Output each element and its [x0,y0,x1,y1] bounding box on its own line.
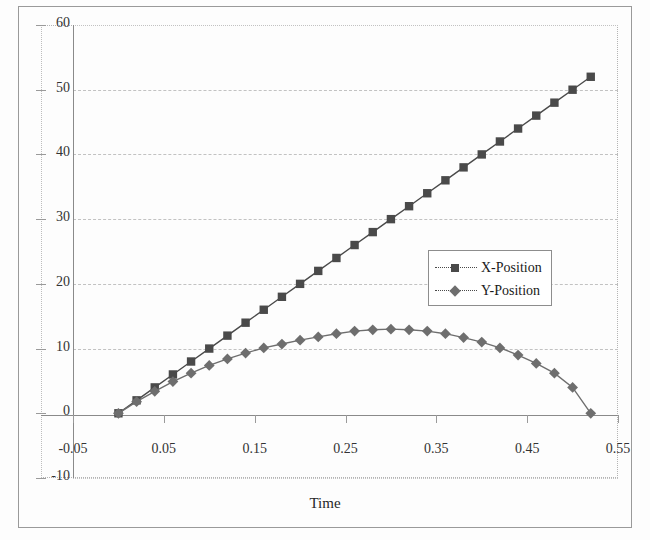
data-point-marker [277,339,288,350]
square-marker-icon [435,262,477,274]
data-point-marker [585,408,596,419]
data-point-marker [296,280,304,288]
chart-legend: X-Position Y-Position [428,250,552,306]
data-point-marker [476,337,487,348]
x-axis-title: Time [0,495,650,512]
data-point-marker [186,368,197,379]
data-point-marker [423,189,431,197]
data-point-marker [205,344,213,352]
data-point-marker [313,332,324,343]
data-point-marker [405,202,413,210]
legend-item-x-position: X-Position [435,256,545,279]
data-point-marker [404,324,415,335]
data-point-marker [531,358,542,369]
data-point-marker [550,98,558,106]
data-point-marker [240,348,251,359]
data-point-marker [367,324,378,335]
data-point-marker [260,306,268,314]
data-point-marker [222,354,233,365]
data-point-marker [422,326,433,337]
data-point-marker [440,328,451,339]
data-point-marker [187,357,195,365]
data-point-marker [314,267,322,275]
data-point-marker [295,335,306,346]
data-point-marker [387,215,395,223]
data-point-marker [369,228,377,236]
legend-label-x-position: X-Position [477,260,542,276]
diamond-marker-icon [435,285,477,297]
data-point-marker [568,86,576,94]
series-y-position [113,324,596,419]
data-point-marker [459,163,467,171]
data-point-marker [331,328,342,339]
data-point-marker [349,326,360,337]
data-point-marker [458,332,469,343]
data-point-marker [386,324,397,335]
chart-figure: -100102030405060 -0.050.050.150.250.350.… [0,0,650,540]
data-point-marker [241,318,249,326]
data-point-marker [514,124,522,132]
data-series-layer [0,0,650,540]
data-point-marker [513,350,524,361]
data-point-marker [478,150,486,158]
data-point-marker [441,176,449,184]
data-point-marker [496,137,504,145]
data-point-marker [258,343,269,354]
data-point-marker [332,254,340,262]
data-point-marker [350,241,358,249]
series-x-position [114,73,595,418]
data-point-marker [532,111,540,119]
legend-item-y-position: Y-Position [435,279,545,302]
legend-label-y-position: Y-Position [477,283,540,299]
data-point-marker [204,360,215,371]
data-point-marker [278,293,286,301]
data-point-marker [223,331,231,339]
data-point-marker [495,343,506,354]
data-point-marker [587,73,595,81]
